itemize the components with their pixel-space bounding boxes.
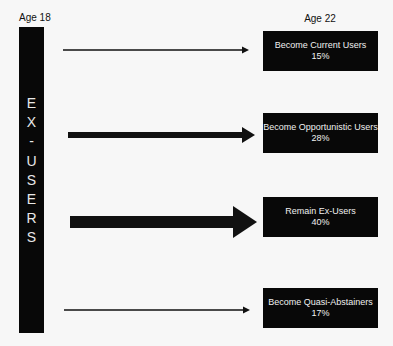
arrow-current-users-icon (63, 47, 249, 54)
outcome-box-opportunistic-users: Become Opportunistic Users 28% (263, 113, 378, 153)
outcome-box-current-users: Become Current Users 15% (263, 31, 378, 71)
outcome-label: Become Quasi-Abstainers (263, 297, 378, 308)
outcome-percent: 28% (263, 133, 378, 144)
outcome-percent: 17% (263, 308, 378, 319)
arrow-remain-ex-users-icon (70, 206, 257, 238)
outcome-label: Become Opportunistic Users (263, 122, 378, 133)
outcome-percent: 40% (263, 217, 378, 228)
arrow-opportunistic-users-icon (68, 127, 255, 143)
outcome-label: Become Current Users (263, 40, 378, 51)
arrow-quasi-abstainers-icon (64, 307, 250, 314)
outcome-percent: 15% (263, 51, 378, 62)
outcome-box-remain-ex-users: Remain Ex-Users 40% (263, 197, 378, 237)
outcome-box-quasi-abstainers: Become Quasi-Abstainers 17% (263, 288, 378, 328)
outcome-label: Remain Ex-Users (263, 206, 378, 217)
